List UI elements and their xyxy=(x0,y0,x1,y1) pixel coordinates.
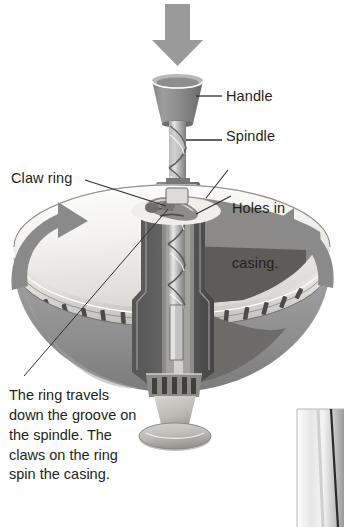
caption-text: The ring travels down the groove on the … xyxy=(9,386,137,485)
label-holes-line2: casing. xyxy=(232,254,285,272)
label-holes-line1: Holes in xyxy=(232,199,285,217)
label-claw-ring: Claw ring xyxy=(11,170,72,188)
handle-part xyxy=(152,74,203,128)
pedestal-vents xyxy=(146,374,202,397)
label-holes-in-casing: Holes in casing. xyxy=(232,163,285,290)
label-handle: Handle xyxy=(226,88,273,106)
adjacent-figure-edge xyxy=(297,409,344,527)
base-foot xyxy=(139,396,211,451)
label-spindle: Spindle xyxy=(226,128,275,146)
down-arrow-icon xyxy=(152,4,203,66)
